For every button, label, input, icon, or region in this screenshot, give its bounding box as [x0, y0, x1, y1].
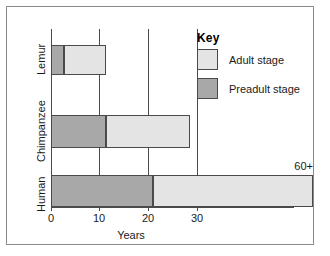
bar-chimpanzee [51, 115, 190, 148]
legend-label-preadult: Preadult stage [229, 83, 300, 95]
category-label-chimpanzee: Chimpanzee [35, 100, 47, 162]
legend-swatch-adult [197, 49, 218, 70]
x-tick-label-10: 10 [93, 212, 105, 224]
x-axis-title: Years [51, 229, 211, 241]
legend-title: Key [197, 31, 300, 45]
x-tick-label-30: 30 [191, 212, 203, 224]
legend-entry-preadult: Preadult stage [197, 78, 300, 99]
legend-label-adult: Adult stage [229, 54, 284, 66]
figure-frame: 60+ 0 10 20 30 Years Lemur Chimpanzee Hu… [6, 6, 314, 245]
x-axis-line [51, 207, 294, 208]
category-label-human: Human [35, 177, 47, 212]
bar-segment-preadult [51, 115, 106, 148]
x-tick-30 [197, 207, 198, 211]
bar-segment-adult [153, 175, 313, 207]
bar-segment-adult [64, 45, 106, 75]
x-tick-label-0: 0 [48, 212, 54, 224]
human-end-label: 60+ [294, 160, 313, 172]
x-tick-20 [148, 207, 149, 211]
bar-lemur [51, 45, 106, 75]
bar-segment-preadult [51, 175, 153, 207]
x-tick-0 [51, 207, 52, 211]
x-tick-10 [99, 207, 100, 211]
x-tick-label-20: 20 [142, 212, 154, 224]
bar-segment-preadult [51, 45, 64, 75]
bar-human [51, 175, 313, 207]
bar-segment-adult [106, 115, 190, 148]
category-label-lemur: Lemur [35, 44, 47, 75]
legend-entry-adult: Adult stage [197, 49, 300, 70]
legend-swatch-preadult [197, 78, 218, 99]
legend: Key Adult stage Preadult stage [197, 31, 300, 107]
chart-screenshot: 60+ 0 10 20 30 Years Lemur Chimpanzee Hu… [0, 0, 330, 256]
